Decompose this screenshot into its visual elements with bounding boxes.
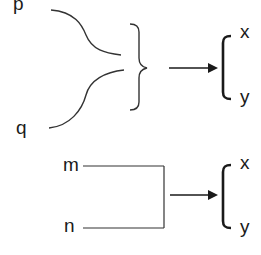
label-p: p <box>13 0 24 13</box>
curve-q <box>49 70 124 128</box>
label-top-y: y <box>240 87 250 106</box>
curve-p <box>51 10 121 55</box>
label-bottom-y: y <box>240 217 250 236</box>
label-n: n <box>64 216 75 235</box>
curly-brace <box>130 24 147 110</box>
label-bottom-x: x <box>240 153 250 172</box>
bracket-bottom <box>223 165 231 228</box>
diagram-svg <box>0 0 261 255</box>
bracket-top <box>223 36 231 99</box>
label-top-x: x <box>240 22 250 41</box>
label-m: m <box>63 155 79 174</box>
label-q: q <box>16 118 27 137</box>
diagram-canvas: p q x y m n x y <box>0 0 261 255</box>
